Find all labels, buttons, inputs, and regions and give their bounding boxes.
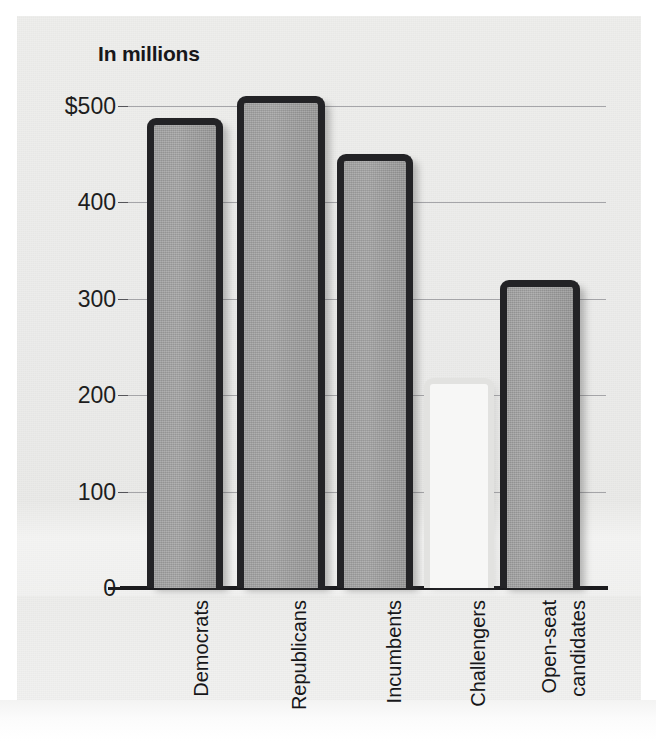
bar-democrats[interactable] [147,118,223,588]
x-label-open-seat-candidates-line1: Open-seat [538,600,561,693]
page-canvas: In millions $5004003002001000 DemocratsR… [0,0,656,741]
bar-halftone-texture [244,103,318,588]
x-label-republicans: Republicans [288,600,311,710]
y-axis-tick-labels: $5004003002001000 [24,0,116,741]
y-tick-label-100: 100 [24,478,116,505]
cut-off-caption [20,726,630,741]
y-tick-label-500: $500 [24,93,116,120]
x-axis-baseline-tick [108,587,122,590]
y-tick-label-400: 400 [24,189,116,216]
y-tick-label-200: 200 [24,382,116,409]
y-tick-label-300: 300 [24,285,116,312]
bar-chart: In millions $5004003002001000 DemocratsR… [0,0,656,741]
gridline-500 [124,106,606,107]
y-tick-mark-400 [118,202,128,203]
y-tick-label-0: 0 [24,575,116,602]
bar-republicans[interactable] [237,96,325,588]
x-label-incumbents: Incumbents [383,600,406,703]
bar-incumbents[interactable] [337,154,413,588]
bar-halftone-texture [344,161,406,588]
x-label-open-seat-candidates-line2: candidates [567,600,590,697]
y-tick-mark-300 [118,299,128,300]
bar-halftone-texture [507,287,573,588]
y-tick-mark-500 [118,106,128,107]
x-label-challengers: Challengers [467,600,490,707]
bar-halftone-texture [154,125,216,588]
x-label-democrats: Democrats [190,600,213,697]
bar-challengers[interactable] [424,378,494,588]
y-tick-mark-200 [118,395,128,396]
bar-open-seat-candidates[interactable] [500,280,580,588]
y-tick-mark-100 [118,492,128,493]
